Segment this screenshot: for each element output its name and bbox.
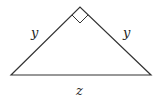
left-leg-label: y bbox=[31, 26, 38, 39]
right-angle-marker bbox=[72, 15, 88, 23]
right-leg-label: y bbox=[123, 26, 130, 39]
triangle bbox=[11, 7, 151, 75]
hypotenuse-label: z bbox=[76, 84, 83, 97]
